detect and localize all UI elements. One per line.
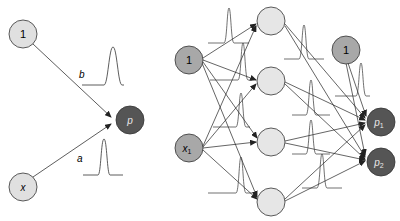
distribution-b-icon [82, 47, 124, 85]
distribution-icon [335, 63, 370, 96]
hidden-node-4 [257, 188, 285, 216]
right-network: 1 x1 1 p1 p2 [175, 7, 395, 216]
distribution-a-icon [83, 139, 123, 175]
svg-text:1: 1 [343, 44, 349, 56]
input-hidden-edges [202, 24, 257, 199]
node-p: p [116, 106, 144, 134]
svg-text:1: 1 [186, 54, 192, 66]
weight-label-b: b [79, 69, 85, 80]
hidden-node-1 [257, 7, 285, 35]
distribution-icon [208, 157, 252, 193]
svg-text:x: x [20, 182, 27, 193]
node-bias-input: 1 [175, 46, 203, 74]
node-p2: p2 [367, 148, 395, 176]
distribution-icon [292, 120, 330, 154]
node-p1: p1 [367, 108, 395, 136]
distribution-icon [302, 154, 342, 188]
edge-x-to-p [33, 124, 111, 177]
node-x1: x1 [175, 134, 203, 162]
left-network: b a 1 x p [9, 20, 144, 201]
hidden-node-2 [257, 67, 285, 95]
node-bias: 1 [9, 20, 37, 48]
hidden-node-3 [257, 128, 285, 156]
node-x: x [9, 173, 37, 201]
edge-bias-to-p [33, 44, 111, 117]
svg-text:1: 1 [20, 28, 26, 40]
distribution-icon [292, 80, 330, 115]
distribution-icon [208, 8, 249, 43]
weight-label-a: a [77, 153, 83, 164]
svg-text:p: p [126, 115, 133, 126]
node-bias-hidden: 1 [332, 36, 360, 64]
bayesian-network-diagram: b a 1 x p [0, 0, 400, 221]
